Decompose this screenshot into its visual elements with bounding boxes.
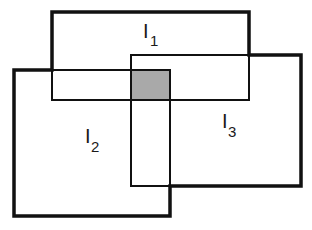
label-i3-sub: 3 <box>228 123 236 140</box>
label-i3: I 3 <box>222 110 236 140</box>
label-i2: I 2 <box>85 125 99 155</box>
venn-rectangles-diagram: I 1 I 2 I 3 <box>0 0 312 230</box>
label-i2-sub: 2 <box>91 138 99 155</box>
label-i1-sub: 1 <box>150 32 158 49</box>
triple-intersection-shaded <box>131 70 170 100</box>
label-i3-main: I <box>222 110 228 132</box>
label-i2-main: I <box>85 125 91 147</box>
label-i1: I 1 <box>143 20 158 49</box>
label-i1-main: I <box>143 20 149 42</box>
